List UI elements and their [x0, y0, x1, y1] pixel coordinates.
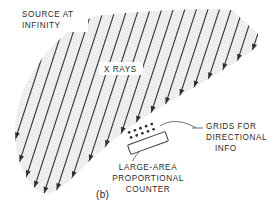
source-label-line-2: INFINITY	[22, 21, 61, 30]
figure-canvas: X RAYS SOURCE AT INFINITY GRIDS FOR DIRE…	[0, 0, 273, 212]
grid-dot	[128, 131, 131, 134]
xray-detector-figure: X RAYS SOURCE AT INFINITY GRIDS FOR DIRE…	[0, 0, 273, 212]
grid-dot	[152, 128, 155, 131]
panel-caption: (b)	[96, 189, 109, 200]
grids-label-group: GRIDS FOR DIRECTIONAL INFO	[203, 120, 271, 156]
grids-leader-line	[160, 122, 196, 128]
x-rays-label-group: X RAYS	[99, 62, 143, 75]
counter-body-rect	[127, 131, 168, 154]
grid-dot	[130, 136, 133, 139]
source-at-infinity-label-group: SOURCE AT INFINITY	[18, 8, 88, 32]
grids-label-line-2: DIRECTIONAL	[206, 133, 267, 142]
counter-label-group: LARGE-AREA PROPORTIONAL COUNTER	[101, 161, 195, 199]
grids-label-line-3: INFO	[215, 144, 237, 153]
grid-dot	[135, 134, 138, 137]
grids-label-line-1: GRIDS FOR	[206, 122, 256, 131]
grid-dot	[141, 132, 144, 135]
grid-dot	[147, 130, 150, 133]
x-rays-label: X RAYS	[104, 65, 137, 74]
counter-label-line-1: LARGE-AREA	[119, 163, 177, 172]
grid-dot	[150, 123, 153, 126]
detector-assembly	[127, 123, 168, 155]
source-label-line-1: SOURCE AT	[22, 10, 74, 19]
grid-dot	[133, 129, 136, 132]
counter-label-line-3: COUNTER	[126, 185, 170, 194]
grid-dot	[145, 125, 148, 128]
grid-dot	[139, 127, 142, 130]
proportional-counter	[127, 131, 168, 154]
counter-label-line-2: PROPORTIONAL	[112, 174, 184, 183]
